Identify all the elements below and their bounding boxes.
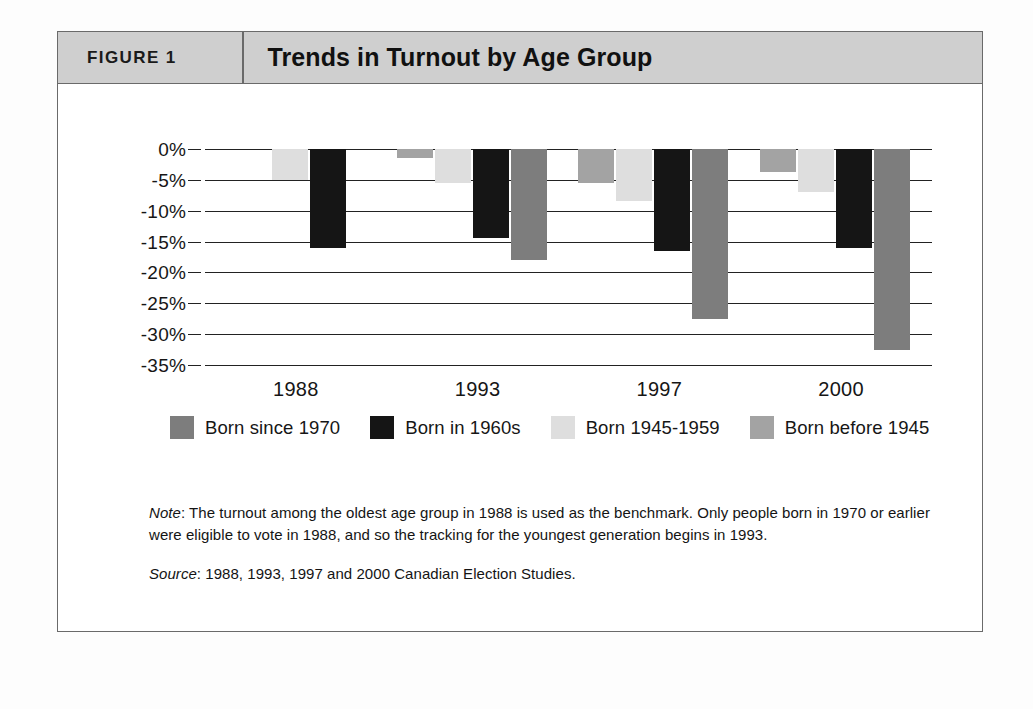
bar-1993-born_in_1960s <box>473 149 509 238</box>
y-tick-mark <box>188 272 201 273</box>
chart-region: 0%-5%-10%-15%-20%-25%-30%-35% 1988199319… <box>58 84 984 434</box>
bar-2000-born_1945_1959 <box>798 149 834 192</box>
legend-item-born-in-1960s[interactable]: Born in 1960s <box>370 416 520 439</box>
chart-legend: Born since 1970Born in 1960sBorn 1945-19… <box>170 416 930 439</box>
bar-2000-born_before_1945 <box>760 149 796 172</box>
bar-2000-born_in_1960s <box>836 149 872 248</box>
plot-area: 0%-5%-10%-15%-20%-25%-30%-35% 1988199319… <box>205 149 932 365</box>
legend-label: Born 1945-1959 <box>586 417 720 439</box>
gridline-neg35: -35% <box>205 365 932 366</box>
bars-layer <box>205 149 932 365</box>
y-tick-label: -5% <box>152 170 186 192</box>
x-tick-label-1988: 1988 <box>273 378 319 401</box>
figure-title: Trends in Turnout by Age Group <box>244 43 983 72</box>
x-tick-label-1997: 1997 <box>637 378 683 401</box>
legend-item-born-before-1945[interactable]: Born before 1945 <box>750 416 930 439</box>
y-tick-mark <box>188 334 201 335</box>
figure-frame: FIGURE 1 Trends in Turnout by Age Group … <box>57 31 983 632</box>
source-lead: Source <box>149 565 197 582</box>
legend-label: Born since 1970 <box>205 417 340 439</box>
figure-note: Note: The turnout among the oldest age g… <box>149 502 949 546</box>
y-tick-mark <box>188 242 201 243</box>
legend-item-born-1945-1959[interactable]: Born 1945-1959 <box>551 416 720 439</box>
y-tick-label: -35% <box>141 355 186 377</box>
bar-1988-born_1945_1959 <box>272 149 308 180</box>
bar-1988-born_in_1960s <box>310 149 346 248</box>
x-tick-label-2000: 2000 <box>818 378 864 401</box>
legend-swatch-born-since-1970 <box>170 416 194 439</box>
figure-source: Source: 1988, 1993, 1997 and 2000 Canadi… <box>149 563 949 585</box>
figure-number-label: FIGURE 1 <box>58 32 242 83</box>
legend-swatch-born-1945-1959 <box>551 416 575 439</box>
y-tick-label: -15% <box>141 232 186 254</box>
bar-1997-born_before_1945 <box>578 149 614 183</box>
figure-body: 0%-5%-10%-15%-20%-25%-30%-35% 1988199319… <box>58 84 982 631</box>
figure-footnotes: Note: The turnout among the oldest age g… <box>149 502 949 584</box>
y-tick-label: -10% <box>141 201 186 223</box>
bar-1993-born_1945_1959 <box>435 149 471 183</box>
note-text: : The turnout among the oldest age group… <box>149 504 930 543</box>
y-tick-mark <box>188 149 201 150</box>
bar-1997-born_in_1960s <box>654 149 690 251</box>
bar-1993-born_before_1945 <box>397 149 433 158</box>
bar-1997-born_since_1970 <box>692 149 728 319</box>
legend-swatch-born-before-1945 <box>750 416 774 439</box>
y-tick-mark <box>188 303 201 304</box>
x-tick-label-1993: 1993 <box>455 378 501 401</box>
y-tick-mark <box>188 365 201 366</box>
y-tick-mark <box>188 180 201 181</box>
legend-item-born-since-1970[interactable]: Born since 1970 <box>170 416 340 439</box>
y-tick-label: -30% <box>141 324 186 346</box>
y-tick-label: -25% <box>141 293 186 315</box>
source-text: : 1988, 1993, 1997 and 2000 Canadian Ele… <box>197 565 576 582</box>
y-tick-mark <box>188 211 201 212</box>
bar-1993-born_since_1970 <box>511 149 547 260</box>
bar-2000-born_since_1970 <box>874 149 910 350</box>
figure-header: FIGURE 1 Trends in Turnout by Age Group <box>58 32 982 84</box>
legend-label: Born in 1960s <box>405 417 520 439</box>
bar-1997-born_1945_1959 <box>616 149 652 201</box>
y-tick-label: -20% <box>141 262 186 284</box>
note-lead: Note <box>149 504 181 521</box>
y-tick-label: 0% <box>158 139 186 161</box>
legend-swatch-born-in-1960s <box>370 416 394 439</box>
legend-label: Born before 1945 <box>785 417 930 439</box>
